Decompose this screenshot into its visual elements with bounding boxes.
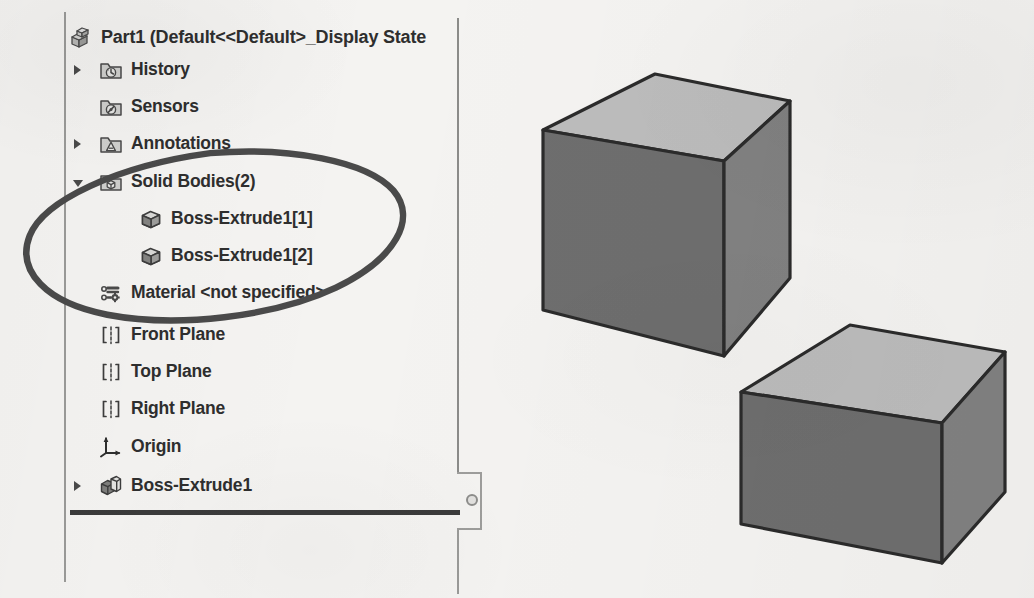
tree-label-solid-bodies: Solid Bodies(2) <box>131 173 255 191</box>
history-folder-icon <box>98 57 124 83</box>
tree-row-top-plane[interactable]: Top Plane <box>98 357 212 387</box>
tree-row-right-plane[interactable]: Right Plane <box>98 394 225 424</box>
tree-row-solid-bodies[interactable]: Solid Bodies(2) <box>98 167 255 197</box>
tree-label-front-plane: Front Plane <box>131 326 225 344</box>
tree-label-material: Material <not specified> <box>131 284 326 302</box>
expander-history[interactable] <box>74 65 81 75</box>
annotations-folder-icon <box>98 131 124 157</box>
feature-manager-tree-panel: Part1 (Default<<Default>_Display State H… <box>64 12 460 582</box>
plane-icon <box>98 359 124 385</box>
tree-row-history[interactable]: History <box>98 55 190 85</box>
tree-row-boss-extrude1-feature[interactable]: Boss-Extrude1 <box>98 471 252 501</box>
rollback-bar[interactable] <box>70 510 460 515</box>
tree-row-origin[interactable]: Origin <box>98 432 181 462</box>
plane-icon <box>98 396 124 422</box>
origin-icon <box>98 434 124 460</box>
tree-label-boss-extrude1-2: Boss-Extrude1[2] <box>171 247 313 265</box>
tree-row-boss-extrude1-2[interactable]: Boss-Extrude1[2] <box>138 241 313 271</box>
tree-label-boss-extrude1-1: Boss-Extrude1[1] <box>171 210 313 228</box>
part-icon <box>68 24 94 50</box>
solid-body-icon <box>138 243 164 269</box>
solid-body-box-1[interactable] <box>543 74 790 356</box>
tree-label-right-plane: Right Plane <box>131 400 225 418</box>
tree-row-front-plane[interactable]: Front Plane <box>98 320 225 350</box>
expander-annotations[interactable] <box>74 139 81 149</box>
extrude-feature-icon <box>98 473 124 499</box>
tree-row-sensors[interactable]: Sensors <box>98 92 199 122</box>
panel-right-border <box>457 18 459 473</box>
tree-row-material[interactable]: Material <not specified> <box>98 278 326 308</box>
expander-solid-bodies[interactable] <box>73 180 83 187</box>
solid-body-box-2[interactable] <box>741 325 1005 563</box>
tree-row-annotations[interactable]: Annotations <box>98 129 231 159</box>
solid-bodies-folder-icon <box>98 169 124 195</box>
panel-right-border-lower <box>457 530 459 594</box>
tree-label-annotations: Annotations <box>131 135 231 153</box>
tree-label-sensors: Sensors <box>131 98 199 116</box>
plane-icon <box>98 322 124 348</box>
model-viewport[interactable] <box>460 0 1034 598</box>
tree-label-top-plane: Top Plane <box>131 363 212 381</box>
box2-front-face <box>741 392 942 563</box>
panel-left-border <box>64 12 66 582</box>
material-icon <box>98 280 124 306</box>
screenshot-root: Part1 (Default<<Default>_Display State H… <box>0 0 1034 598</box>
box1-front-face <box>543 130 724 356</box>
solid-body-icon <box>138 206 164 232</box>
expander-boss-extrude1[interactable] <box>74 481 81 491</box>
root-label: Part1 (Default<<Default>_Display State <box>101 28 426 46</box>
tree-row-boss-extrude1-1[interactable]: Boss-Extrude1[1] <box>138 204 313 234</box>
tree-label-history: History <box>131 61 190 79</box>
tree-label-origin: Origin <box>131 438 181 456</box>
sensors-folder-icon <box>98 94 124 120</box>
tree-label-boss-extrude1-feature: Boss-Extrude1 <box>131 477 252 495</box>
tree-row-root[interactable]: Part1 (Default<<Default>_Display State <box>68 22 426 52</box>
